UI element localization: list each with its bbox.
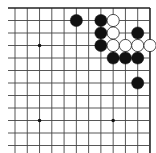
star-point-icon [38, 119, 42, 123]
black-stone [95, 14, 107, 26]
white-stone [144, 39, 156, 51]
white-stone [107, 14, 119, 26]
white-stone [107, 39, 119, 51]
star-point-icon [111, 119, 115, 123]
black-stone [107, 52, 119, 64]
black-stone [132, 52, 144, 64]
black-stone [70, 14, 82, 26]
go-board [0, 0, 156, 153]
white-stone [132, 39, 144, 51]
black-stone [95, 39, 107, 51]
black-stone [119, 52, 131, 64]
star-point-icon [38, 44, 42, 48]
white-stone [107, 27, 119, 39]
black-stone [95, 27, 107, 39]
board-grid [8, 8, 150, 153]
black-stone [132, 27, 144, 39]
black-stone [132, 77, 144, 89]
white-stone [119, 39, 131, 51]
